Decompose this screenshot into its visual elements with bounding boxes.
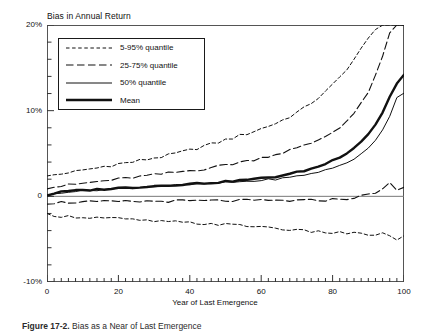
x-axis-tick-label: 100 bbox=[389, 287, 419, 296]
legend-item-25-75: 25-75% quantile bbox=[59, 57, 204, 75]
y-axis-tick-label: 10% bbox=[12, 106, 42, 115]
x-axis-tick-label: 60 bbox=[246, 287, 276, 296]
y-axis-tick-label: 20% bbox=[12, 20, 42, 29]
x-axis-tick-label: 40 bbox=[175, 287, 205, 296]
legend-label-5-95: 5-95% quantile bbox=[120, 43, 173, 52]
legend-swatch-mean-icon bbox=[66, 96, 112, 104]
y-axis-tick-label: -10% bbox=[12, 277, 42, 286]
figure-container: Bias in Annual Return 20%10%0-10% 020406… bbox=[0, 0, 430, 335]
legend-swatch-50-icon bbox=[66, 79, 112, 87]
x-axis-tick-label: 80 bbox=[318, 287, 348, 296]
figure-caption-text: Bias as a Near of Last Emergence bbox=[72, 321, 201, 331]
legend-label-25-75: 25-75% quantile bbox=[120, 61, 178, 70]
legend-swatch-25-75-icon bbox=[66, 61, 112, 69]
legend-label-50: 50% quantile bbox=[120, 78, 166, 87]
legend-item-5-95: 5-95% quantile bbox=[59, 39, 204, 57]
x-axis-tick-label: 20 bbox=[103, 287, 133, 296]
figure-caption-number: Figure 17-2. bbox=[22, 321, 70, 331]
legend-label-mean: Mean bbox=[120, 96, 140, 105]
chart-legend: 5-95% quantile 25-75% quantile 50% quant… bbox=[58, 38, 205, 110]
legend-swatch-5-95-icon bbox=[66, 44, 112, 52]
figure-caption: Figure 17-2. Bias as a Near of Last Emer… bbox=[22, 321, 422, 331]
x-axis-tick-label: 0 bbox=[32, 287, 62, 296]
legend-item-mean: Mean bbox=[59, 92, 204, 110]
page-title: Bias in Annual Return bbox=[47, 11, 131, 21]
y-axis-tick-label: 0 bbox=[12, 191, 42, 200]
x-axis-title: Year of Last Emergence bbox=[0, 298, 430, 307]
legend-item-50: 50% quantile bbox=[59, 74, 204, 92]
